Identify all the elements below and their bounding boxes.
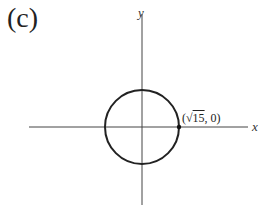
point-label: (√15, 0) <box>182 112 221 124</box>
marked-point <box>177 125 181 129</box>
coordinate-plot <box>0 0 278 207</box>
y-axis-label: y <box>138 6 144 19</box>
x-axis-label: x <box>252 120 258 133</box>
panel-label: (c) <box>7 4 38 32</box>
figure: (c) y x (√15, 0) <box>0 0 278 207</box>
